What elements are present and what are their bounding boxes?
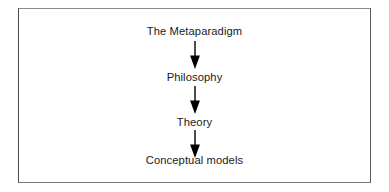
flowchart-figure: The Metaparadigm Philosophy Theory Conce…: [0, 0, 389, 192]
flow-node-theory: Theory: [0, 116, 389, 129]
flow-stack: The Metaparadigm Philosophy Theory Conce…: [0, 0, 389, 192]
flow-arrow-philosophy-to-theory: [0, 86, 389, 114]
flow-node-conceptual-models: Conceptual models: [0, 154, 389, 167]
flow-arrow-metaparadigm-to-philosophy: [0, 41, 389, 69]
flow-node-philosophy: Philosophy: [0, 71, 389, 84]
flow-node-metaparadigm: The Metaparadigm: [0, 25, 389, 38]
